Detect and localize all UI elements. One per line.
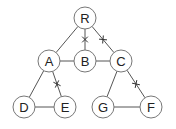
edge-R-C — [92, 26, 114, 52]
node-B: B — [74, 50, 96, 72]
nodes-layer: RABCDEGF — [13, 7, 162, 118]
edge-line — [29, 71, 43, 98]
node-R: R — [74, 7, 96, 29]
node-label: C — [116, 54, 125, 69]
edge-R-B — [82, 29, 88, 50]
node-D: D — [13, 96, 35, 118]
edge-A-E — [53, 71, 62, 96]
node-G: G — [92, 96, 114, 118]
node-label: R — [80, 11, 89, 26]
node-A: A — [38, 50, 60, 72]
node-label: B — [81, 54, 90, 69]
node-label: D — [19, 100, 28, 115]
node-E: E — [54, 96, 76, 118]
node-label: G — [98, 100, 108, 115]
node-label: A — [45, 54, 54, 69]
node-label: F — [147, 100, 155, 115]
cut-mark-icon — [53, 80, 60, 87]
graph-diagram: RABCDEGF — [0, 0, 176, 129]
node-label: E — [61, 100, 70, 115]
node-F: F — [140, 96, 162, 118]
edge-C-F — [127, 70, 145, 98]
edge-line — [107, 71, 117, 97]
cut-mark-icon — [132, 80, 140, 88]
edge-line — [56, 26, 78, 52]
edge-R-A — [56, 26, 78, 52]
edge-C-G — [107, 71, 117, 97]
edge-A-D — [29, 71, 43, 98]
node-C: C — [110, 50, 132, 72]
